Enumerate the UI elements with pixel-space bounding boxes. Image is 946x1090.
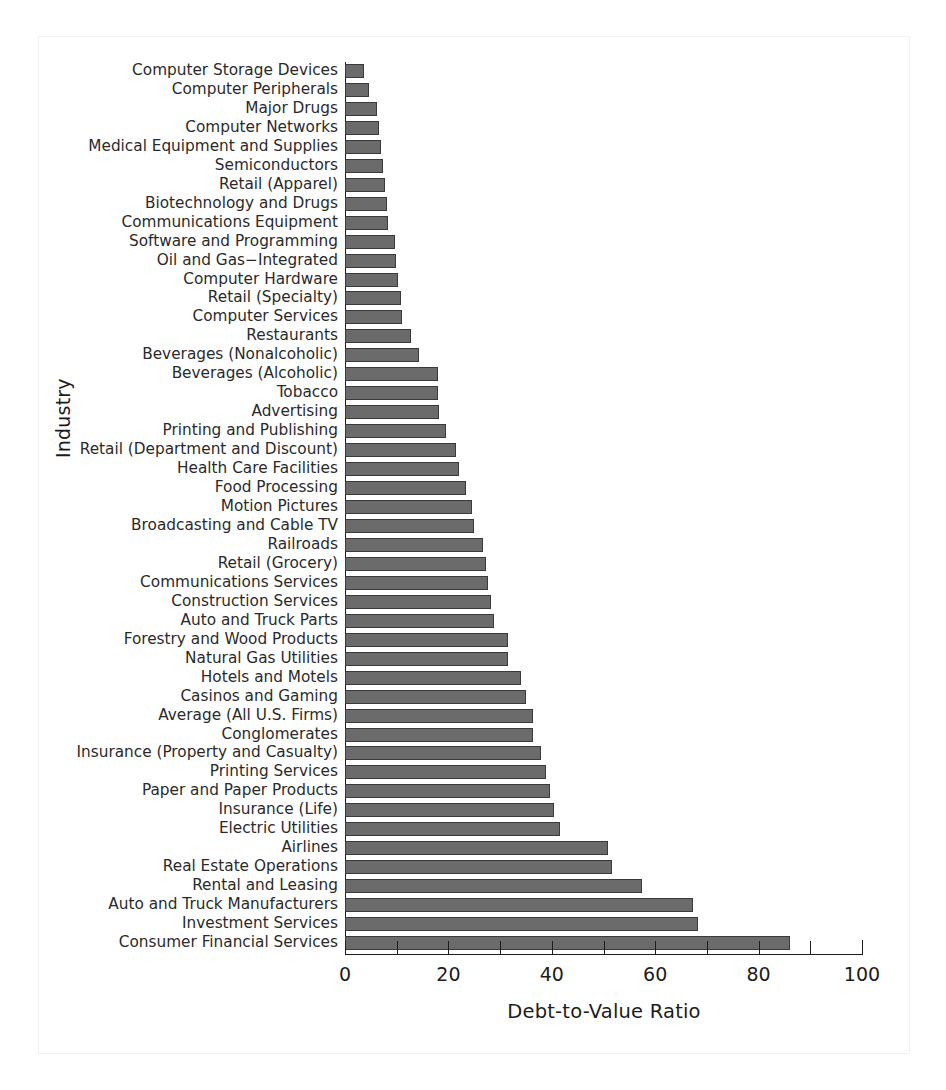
bar [345, 348, 419, 362]
bar [345, 728, 533, 742]
category-label: Paper and Paper Products [142, 781, 338, 800]
category-label: Biotechnology and Drugs [145, 194, 338, 213]
chart-figure: Industry Computer Storage DevicesCompute… [0, 0, 946, 1090]
x-tick-minor [500, 941, 501, 955]
x-axis-title: Debt-to-Value Ratio [345, 1000, 863, 1023]
bar [345, 102, 377, 116]
bar [345, 860, 612, 874]
category-label: Airlines [281, 838, 338, 857]
category-label: Auto and Truck Manufacturers [108, 895, 338, 914]
category-label: Electric Utilities [219, 819, 338, 838]
category-label: Major Drugs [245, 99, 338, 118]
x-tick-major [448, 941, 449, 955]
x-tick-minor [604, 941, 605, 955]
category-label: Auto and Truck Parts [181, 611, 338, 630]
category-label: Oil and Gas−Integrated [157, 251, 338, 270]
bar [345, 633, 508, 647]
category-label: Hotels and Motels [201, 668, 338, 687]
category-label: Natural Gas Utilities [185, 649, 338, 668]
x-tick-major [655, 941, 656, 955]
bar [345, 879, 642, 893]
x-tick-minor [707, 941, 708, 955]
x-tick-minor [397, 941, 398, 955]
bar [345, 765, 546, 779]
category-label: Computer Storage Devices [132, 61, 338, 80]
x-tick-label: 40 [540, 963, 564, 985]
bar [345, 917, 698, 931]
x-tick-label: 0 [339, 963, 351, 985]
bar [345, 197, 387, 211]
category-label: Printing and Publishing [162, 421, 338, 440]
bar [345, 329, 411, 343]
bar [345, 500, 472, 514]
bar [345, 784, 550, 798]
bar [345, 424, 446, 438]
bar [345, 671, 521, 685]
category-label: Forestry and Wood Products [124, 630, 338, 649]
category-label: Retail (Grocery) [218, 554, 338, 573]
category-label: Food Processing [215, 478, 338, 497]
category-label: Investment Services [182, 914, 338, 933]
category-label: Advertising [251, 402, 338, 421]
x-tick-label: 60 [643, 963, 667, 985]
bar [345, 538, 483, 552]
bar [345, 841, 608, 855]
category-label: Computer Hardware [183, 270, 338, 289]
category-label: Beverages (Nonalcoholic) [142, 345, 338, 364]
category-label: Communications Services [140, 573, 338, 592]
category-label: Semiconductors [215, 156, 338, 175]
x-tick-label: 100 [844, 963, 880, 985]
category-label: Construction Services [171, 592, 338, 611]
bar [345, 519, 474, 533]
bar [345, 614, 494, 628]
category-label: Real Estate Operations [163, 857, 338, 876]
x-tick-major [552, 941, 553, 955]
category-label: Motion Pictures [221, 497, 338, 516]
x-tick-major [862, 941, 863, 955]
bar [345, 576, 488, 590]
category-label: Printing Services [210, 762, 338, 781]
bar [345, 822, 560, 836]
category-label: Broadcasting and Cable TV [131, 516, 338, 535]
bar [345, 159, 383, 173]
category-label: Tobacco [277, 383, 338, 402]
bar [345, 83, 369, 97]
x-tick-major [759, 941, 760, 955]
bar [345, 367, 438, 381]
category-label: Communications Equipment [122, 213, 338, 232]
bar [345, 936, 790, 950]
bar [345, 178, 385, 192]
bar [345, 291, 401, 305]
category-label: Restaurants [246, 326, 338, 345]
category-label: Insurance (Life) [219, 800, 338, 819]
bar [345, 652, 508, 666]
bar [345, 121, 379, 135]
category-label: Casinos and Gaming [180, 687, 338, 706]
category-label: Average (All U.S. Firms) [158, 706, 338, 725]
category-label: Computer Peripherals [172, 80, 338, 99]
bar [345, 746, 541, 760]
bar [345, 386, 438, 400]
category-label: Retail (Specialty) [208, 288, 338, 307]
x-tick-minor [810, 941, 811, 955]
bar [345, 310, 402, 324]
bar [345, 898, 693, 912]
bar [345, 443, 456, 457]
bar [345, 690, 526, 704]
category-label: Medical Equipment and Supplies [88, 137, 338, 156]
x-tick-major [345, 941, 346, 955]
x-tick-label: 80 [747, 963, 771, 985]
y-axis-title: Industry [52, 278, 80, 458]
bar [345, 235, 395, 249]
bar [345, 140, 381, 154]
category-label: Conglomerates [222, 725, 338, 744]
category-label: Retail (Apparel) [219, 175, 338, 194]
category-label: Railroads [267, 535, 338, 554]
bar [345, 462, 459, 476]
bar [345, 557, 486, 571]
category-label: Insurance (Property and Casualty) [77, 743, 338, 762]
bar [345, 709, 533, 723]
category-label: Consumer Financial Services [119, 933, 338, 952]
x-tick-label: 20 [436, 963, 460, 985]
bar [345, 481, 466, 495]
